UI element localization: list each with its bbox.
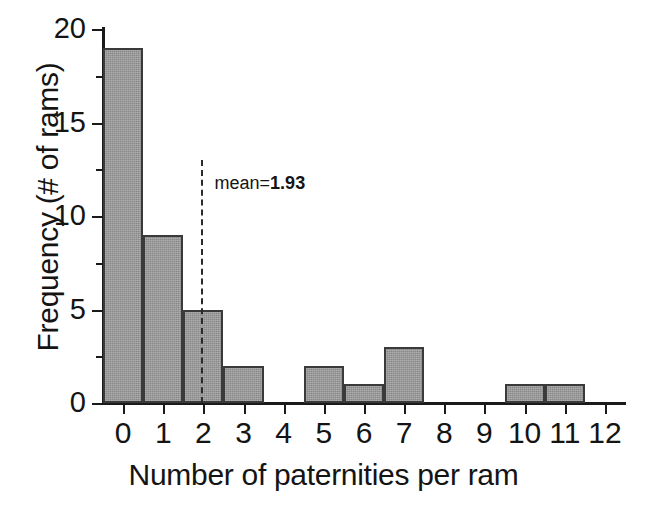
bar-0: [103, 48, 143, 403]
y-tick-0: [92, 403, 103, 405]
x-tick-6: [364, 403, 366, 414]
x-tick-7: [404, 403, 406, 414]
y-tick-label-0: 0: [26, 388, 86, 417]
y-minor-tick-2.5: [96, 356, 103, 358]
x-tick-12: [605, 403, 607, 414]
x-tick-3: [244, 403, 246, 414]
bar-7: [384, 347, 424, 403]
bar-10: [505, 384, 545, 403]
y-tick-label-15: 15: [26, 108, 86, 137]
x-tick-11: [565, 403, 567, 414]
x-tick-5: [324, 403, 326, 414]
y-tick-label-20: 20: [26, 14, 86, 43]
x-tick-1: [163, 403, 165, 414]
y-tick-label-5: 5: [26, 295, 86, 324]
y-tick-5: [92, 310, 103, 312]
mean-label: mean=1.93: [215, 173, 306, 194]
mean-line: [201, 160, 203, 403]
x-tick-8: [444, 403, 446, 414]
mean-label-value: 1.93: [270, 173, 305, 193]
y-tick-10: [92, 216, 103, 218]
plot-area: mean=1.93: [103, 29, 625, 403]
bar-2: [183, 310, 223, 404]
y-minor-tick-12.5: [96, 169, 103, 171]
y-tick-20: [92, 29, 103, 31]
y-tick-15: [92, 123, 103, 125]
histogram-figure: Frequency (# of rams) Number of paternit…: [0, 0, 647, 520]
y-minor-tick-17.5: [96, 76, 103, 78]
bar-11: [545, 384, 585, 403]
x-tick-0: [123, 403, 125, 414]
bar-1: [143, 235, 183, 403]
x-tick-9: [484, 403, 486, 414]
y-minor-tick-7.5: [96, 263, 103, 265]
y-tick-label-10: 10: [26, 201, 86, 230]
x-tick-2: [203, 403, 205, 414]
bar-6: [344, 384, 384, 403]
x-axis-title: Number of paternities per ram: [0, 458, 647, 492]
x-tick-4: [284, 403, 286, 414]
mean-label-prefix: mean=: [215, 173, 271, 193]
bar-3: [223, 366, 263, 403]
x-tick-label-12: 12: [575, 418, 635, 448]
bar-5: [304, 366, 344, 403]
x-tick-10: [525, 403, 527, 414]
